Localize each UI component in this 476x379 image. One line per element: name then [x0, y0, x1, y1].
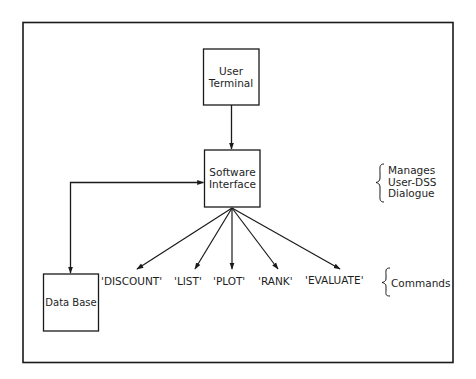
software-interface-line-1: Software	[204, 166, 261, 178]
brace-manages-icon	[376, 164, 384, 202]
interface-role-line-1: Manages	[388, 165, 436, 177]
user-terminal-line-1: User	[203, 65, 259, 77]
commands-annotation: Commands	[391, 277, 450, 289]
arrow-to-discount	[137, 208, 232, 269]
command-list: 'LIST'	[174, 275, 202, 287]
brace-commands-icon	[382, 268, 390, 296]
software-interface-label: Software Interface	[204, 166, 261, 190]
arrow-to-evaluate	[232, 208, 340, 269]
arrow-to-rank	[232, 208, 278, 269]
user-terminal-line-2: Terminal	[203, 77, 259, 89]
user-terminal-label: User Terminal	[203, 65, 259, 89]
interface-role-annotation: Manages User-DSS Dialogue	[388, 165, 436, 200]
software-interface-line-2: Interface	[204, 178, 261, 190]
command-rank: 'RANK'	[258, 275, 293, 287]
interface-role-line-3: Dialogue	[388, 188, 436, 200]
data-base-label: Data Base	[43, 297, 99, 309]
command-plot: 'PLOT'	[213, 275, 245, 287]
arrow-to-list	[195, 208, 232, 269]
arrow-interface-database	[71, 183, 204, 274]
command-discount: 'DISCOUNT'	[101, 275, 162, 287]
command-evaluate: 'EVALUATE'	[305, 274, 364, 286]
